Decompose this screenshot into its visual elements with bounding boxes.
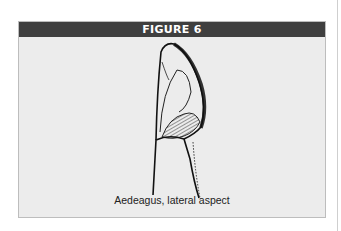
figure-panel: FIGURE 6 Aedeagus, lateral aspect [18, 21, 326, 218]
aedeagus-illustration [19, 22, 327, 219]
page-margin-rule [337, 0, 338, 231]
figure-caption: Aedeagus, lateral aspect [19, 194, 325, 206]
